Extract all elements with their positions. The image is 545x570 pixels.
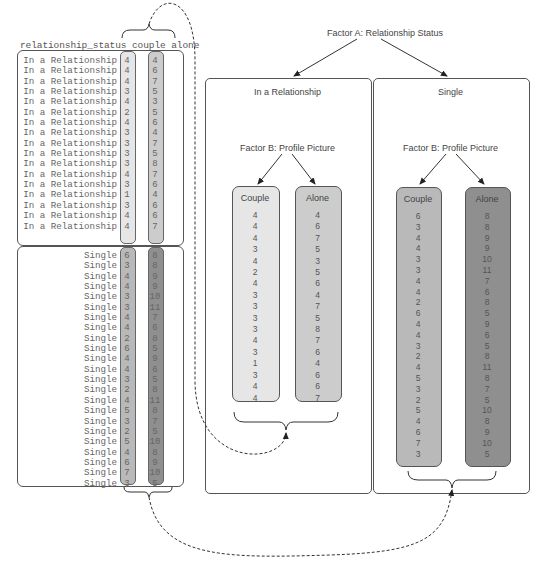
row-alone-value: 8 xyxy=(148,251,162,261)
row-couple-value: 4 xyxy=(120,77,134,87)
row-alone-value: 11 xyxy=(148,303,162,313)
row-alone-value: 5 xyxy=(148,375,162,385)
row-couple-value: 4 xyxy=(120,323,134,333)
row-couple-value: 3 xyxy=(120,479,134,489)
row-couple-value: 6 xyxy=(120,344,134,354)
row-alone-value: 7 xyxy=(148,139,162,149)
row-couple-value: 4 xyxy=(120,448,134,458)
panel-title-in-a-relationship: In a Relationship xyxy=(205,87,370,97)
row-couple-value: 3 xyxy=(120,149,134,159)
row-status: Single xyxy=(18,479,117,489)
row-couple-value: 3 xyxy=(120,128,134,138)
factor-a-label: Factor A: Relationship Status xyxy=(290,28,480,38)
row-couple-value: 4 xyxy=(120,354,134,364)
row-alone-value: 8 xyxy=(148,334,162,344)
row-status: In a Relationship xyxy=(18,222,117,232)
row-alone-value: 4 xyxy=(148,128,162,138)
row-alone-value: 7 xyxy=(148,222,162,232)
group-title-rel-alone: Alone xyxy=(295,193,340,203)
row-alone-value: 9 xyxy=(148,282,162,292)
group-values-single-alone: 8 8 9 9 10 11 7 6 8 5 9 6 5 8 11 8 7 5 1… xyxy=(465,211,509,459)
row-couple-value: 6 xyxy=(120,251,134,261)
row-couple-value: 4 xyxy=(120,282,134,292)
panel-title-single: Single xyxy=(373,87,528,97)
row-couple-value: 3 xyxy=(120,201,134,211)
row-alone-value: 8 xyxy=(148,448,162,458)
row-alone-value: 5 xyxy=(148,427,162,437)
row-couple-value: 4 xyxy=(120,118,134,128)
group-title-single-alone: Alone xyxy=(465,194,509,204)
row-couple-value: 6 xyxy=(120,458,134,468)
row-alone-value: 5 xyxy=(148,344,162,354)
group-values-rel-couple: 4 4 4 3 4 2 4 3 3 3 3 4 3 1 3 4 4 xyxy=(232,210,278,404)
row-couple-value: 4 xyxy=(120,170,134,180)
table-row: Single58 xyxy=(18,406,178,416)
row-alone-value: 9 xyxy=(148,354,162,364)
row-alone-value: 10 xyxy=(148,437,162,447)
row-couple-value: 7 xyxy=(120,468,134,478)
row-couple-value: 5 xyxy=(120,406,134,416)
row-alone-value: 8 xyxy=(148,385,162,395)
row-status: In a Relationship xyxy=(18,211,117,221)
row-couple-value: 4 xyxy=(120,56,134,66)
row-alone-value: 9 xyxy=(148,458,162,468)
row-couple-value: 4 xyxy=(120,396,134,406)
table-row: Single710 xyxy=(18,468,178,478)
row-couple-value: 3 xyxy=(120,375,134,385)
row-couple-value: 3 xyxy=(120,417,134,427)
table-row: In a Relationship46 xyxy=(18,211,178,221)
row-couple-value: 3 xyxy=(120,292,134,302)
row-alone-value: 5 xyxy=(148,149,162,159)
group-values-rel-alone: 4 6 7 5 3 5 6 4 7 5 8 7 6 4 6 6 7 xyxy=(295,210,340,404)
row-alone-value: 5 xyxy=(148,108,162,118)
row-status: Single xyxy=(18,437,117,447)
row-status: Single xyxy=(18,468,117,478)
row-alone-value: 6 xyxy=(148,211,162,221)
row-alone-value: 6 xyxy=(148,118,162,128)
factor-b-label-single: Factor B: Profile Picture xyxy=(373,143,528,153)
row-couple-value: 3 xyxy=(120,139,134,149)
row-status: Single xyxy=(18,406,117,416)
row-alone-value: 8 xyxy=(148,406,162,416)
table-rows-in-a-relationship: In a Relationship44In a Relationship46In… xyxy=(18,56,178,232)
row-couple-value: 4 xyxy=(120,272,134,282)
brace-table-top xyxy=(122,24,175,38)
row-alone-value: 8 xyxy=(148,261,162,271)
group-title-single-couple: Couple xyxy=(396,194,440,204)
row-alone-value: 7 xyxy=(148,77,162,87)
row-couple-value: 2 xyxy=(120,108,134,118)
row-alone-value: 10 xyxy=(148,468,162,478)
row-alone-value: 7 xyxy=(148,313,162,323)
row-couple-value: 4 xyxy=(120,313,134,323)
row-alone-value: 6 xyxy=(148,66,162,76)
dashed-connector-single xyxy=(149,490,452,556)
row-alone-value: 3 xyxy=(148,97,162,107)
row-alone-value: 6 xyxy=(148,201,162,211)
row-alone-value: 6 xyxy=(148,180,162,190)
row-alone-value: 9 xyxy=(148,272,162,282)
row-alone-value: 11 xyxy=(148,396,162,406)
row-alone-value: 4 xyxy=(148,56,162,66)
row-alone-value: 5 xyxy=(148,87,162,97)
row-alone-value: 6 xyxy=(148,323,162,333)
row-couple-value: 4 xyxy=(120,97,134,107)
row-couple-value: 2 xyxy=(120,385,134,395)
table-row: Single510 xyxy=(18,437,178,447)
row-alone-value: 7 xyxy=(148,170,162,180)
row-couple-value: 3 xyxy=(120,180,134,190)
row-couple-value: 4 xyxy=(120,365,134,375)
panel-in-a-relationship xyxy=(205,78,372,494)
row-alone-value: 8 xyxy=(148,159,162,169)
row-couple-value: 4 xyxy=(120,66,134,76)
row-couple-value: 1 xyxy=(120,190,134,200)
row-couple-value: 4 xyxy=(120,222,134,232)
row-alone-value: 10 xyxy=(148,292,162,302)
row-couple-value: 3 xyxy=(120,159,134,169)
factor-a-arrows xyxy=(294,39,447,76)
factor-b-label-relationship: Factor B: Profile Picture xyxy=(205,143,370,153)
row-alone-value: 7 xyxy=(148,417,162,427)
table-row: Single35 xyxy=(18,479,178,489)
row-couple-value: 3 xyxy=(120,303,134,313)
row-couple-value: 4 xyxy=(120,211,134,221)
row-couple-value: 3 xyxy=(120,87,134,97)
